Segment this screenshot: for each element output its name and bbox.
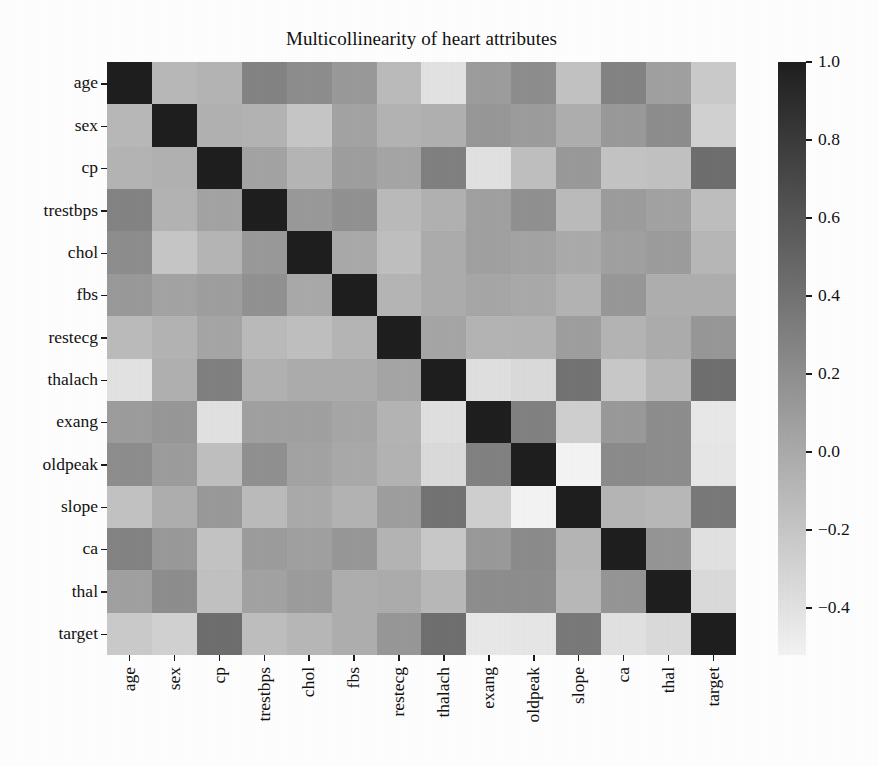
- colorbar-tick-label: 0.4: [818, 287, 840, 305]
- heatmap-cell: [287, 486, 332, 528]
- heatmap-cell: [421, 401, 466, 443]
- x-axis-tick-label: cp: [211, 667, 229, 684]
- x-axis-tick-mark: [668, 655, 669, 661]
- heatmap-cell: [197, 613, 242, 655]
- y-axis-tick-mark: [101, 295, 107, 296]
- heatmap-cell: [646, 528, 691, 570]
- heatmap-cell: [332, 443, 377, 485]
- heatmap-cell-grid[interactable]: [107, 62, 736, 655]
- heatmap-cell: [107, 359, 152, 401]
- x-axis-tick-label: exang: [480, 667, 498, 709]
- heatmap-cell: [601, 443, 646, 485]
- heatmap-cell: [242, 147, 287, 189]
- heatmap-cell: [377, 443, 422, 485]
- heatmap-cell: [421, 231, 466, 273]
- heatmap-plot-area[interactable]: [107, 62, 736, 655]
- x-axis-tick-mark: [488, 655, 489, 661]
- heatmap-cell: [511, 528, 556, 570]
- heatmap-cell: [601, 359, 646, 401]
- y-axis-tick-label: oldpeak: [43, 456, 98, 474]
- x-axis-tick-mark: [129, 655, 130, 661]
- heatmap-cell: [511, 104, 556, 146]
- heatmap-cell: [152, 104, 197, 146]
- heatmap-cell: [242, 316, 287, 358]
- heatmap-cell: [152, 189, 197, 231]
- heatmap-cell: [556, 274, 601, 316]
- heatmap-cell: [601, 528, 646, 570]
- heatmap-cell: [601, 189, 646, 231]
- y-axis-tick-mark: [101, 126, 107, 127]
- heatmap-cell: [646, 147, 691, 189]
- heatmap-cell: [691, 613, 736, 655]
- heatmap-cell: [107, 613, 152, 655]
- x-axis-tick-label: chol: [300, 667, 318, 697]
- y-axis-tick-mark: [101, 380, 107, 381]
- heatmap-cell: [691, 359, 736, 401]
- heatmap-cell: [601, 231, 646, 273]
- heatmap-cell: [556, 443, 601, 485]
- y-axis-tick-label: thalach: [47, 371, 98, 389]
- heatmap-cell: [646, 486, 691, 528]
- heatmap-cell: [107, 316, 152, 358]
- y-axis-tick-label: thal: [72, 583, 98, 601]
- heatmap-cell: [107, 486, 152, 528]
- heatmap-cell: [242, 231, 287, 273]
- colorbar-tick-mark: [806, 61, 812, 62]
- heatmap-cell: [601, 147, 646, 189]
- heatmap-cell: [287, 316, 332, 358]
- heatmap-cell: [152, 486, 197, 528]
- heatmap-cell: [556, 316, 601, 358]
- heatmap-cell: [466, 613, 511, 655]
- heatmap-cell: [107, 274, 152, 316]
- heatmap-cell: [152, 274, 197, 316]
- x-axis-tick-mark: [623, 655, 624, 661]
- heatmap-cell: [421, 443, 466, 485]
- y-axis-tick-mark: [101, 168, 107, 169]
- y-axis-tick-mark: [101, 507, 107, 508]
- y-axis-tick-label: age: [74, 74, 98, 92]
- heatmap-cell: [377, 359, 422, 401]
- heatmap-cell: [691, 189, 736, 231]
- heatmap-cell: [466, 104, 511, 146]
- colorbar-tick-label: 0.2: [818, 365, 840, 383]
- heatmap-cell: [377, 189, 422, 231]
- x-axis-tick-label: target: [705, 667, 723, 707]
- colorbar-tick-mark: [806, 529, 812, 530]
- heatmap-cell: [466, 401, 511, 443]
- heatmap-cell: [287, 528, 332, 570]
- heatmap-cell: [197, 104, 242, 146]
- heatmap-cell: [421, 486, 466, 528]
- heatmap-cell: [377, 528, 422, 570]
- x-axis-tick-label: thal: [660, 667, 678, 693]
- heatmap-cell: [421, 62, 466, 104]
- heatmap-cell: [332, 401, 377, 443]
- heatmap-cell: [601, 62, 646, 104]
- heatmap-cell: [556, 613, 601, 655]
- heatmap-cell: [107, 401, 152, 443]
- heatmap-cell: [556, 486, 601, 528]
- heatmap-cell: [691, 147, 736, 189]
- colorbar-tick-mark: [806, 217, 812, 218]
- x-axis-tick-mark: [533, 655, 534, 661]
- heatmap-cell: [691, 104, 736, 146]
- heatmap-cell: [377, 231, 422, 273]
- heatmap-cell: [242, 443, 287, 485]
- heatmap-cell: [242, 528, 287, 570]
- heatmap-cell: [152, 528, 197, 570]
- heatmap-cell: [332, 231, 377, 273]
- heatmap-cell: [197, 570, 242, 612]
- colorbar-tick-mark: [806, 295, 812, 296]
- heatmap-cell: [601, 486, 646, 528]
- y-axis-tick-mark: [101, 591, 107, 592]
- heatmap-cell: [466, 443, 511, 485]
- heatmap-cell: [242, 189, 287, 231]
- colorbar-tick-label: 1.0: [818, 53, 840, 71]
- heatmap-cell: [242, 570, 287, 612]
- y-axis-tick-mark: [101, 83, 107, 84]
- x-axis-tick-label: age: [121, 667, 139, 691]
- x-axis-tick-mark: [398, 655, 399, 661]
- x-axis-tick-label: trestbps: [256, 667, 274, 721]
- heatmap-cell: [242, 104, 287, 146]
- heatmap-cell: [421, 528, 466, 570]
- heatmap-cell: [332, 486, 377, 528]
